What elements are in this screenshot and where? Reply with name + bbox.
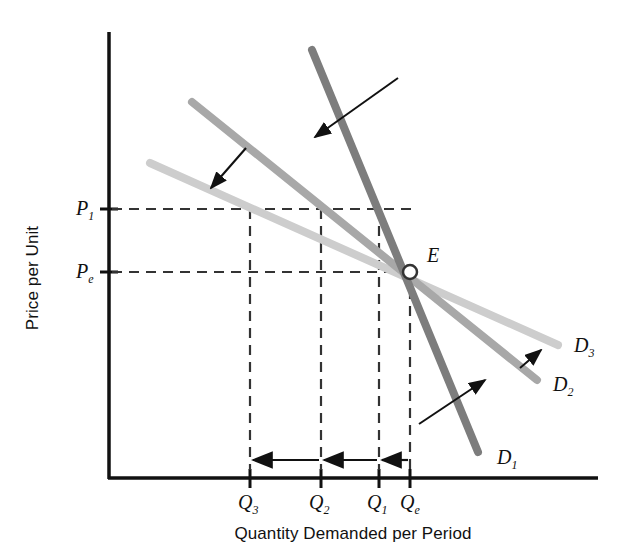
- y-axis-title: Price per Unit: [23, 183, 43, 373]
- price-label-pe-sub: e: [88, 272, 93, 286]
- quantity-label-q2-text: Q: [309, 491, 323, 513]
- quantity-label-qe-text: Q: [400, 491, 414, 513]
- price-label-p1-text: P: [76, 197, 88, 219]
- demand-elasticity-chart: Price per Unit Quantity Demanded per Per…: [0, 0, 629, 558]
- arrow-to-d2-icon: [211, 148, 246, 188]
- quantity-label-q3: Q3: [238, 491, 258, 518]
- quantity-label-qe-sub: e: [414, 503, 419, 517]
- price-label-pe: Pe: [76, 260, 94, 287]
- demand-curve-d1: [312, 50, 478, 452]
- quantity-label-q2: Q2: [309, 491, 329, 518]
- price-label-p1-sub: 1: [88, 209, 94, 223]
- quantity-label-q3-text: Q: [238, 491, 252, 513]
- curve-label-d1-text: D: [497, 446, 511, 468]
- quantity-label-qe: Qe: [400, 491, 420, 518]
- dashed-quantity-lines: [250, 209, 410, 470]
- curve-label-d2-sub: 2: [567, 385, 573, 399]
- demand-curve-d2: [192, 102, 537, 380]
- curve-label-d3-sub: 3: [588, 346, 594, 360]
- quantity-label-q2-sub: 2: [323, 503, 329, 517]
- curve-label-d1-sub: 1: [511, 458, 517, 472]
- x-axis-title: Quantity Demanded per Period: [108, 524, 598, 544]
- price-label-pe-text: P: [76, 260, 88, 282]
- equilibrium-point-marker: [403, 265, 417, 279]
- curve-label-d2: D2: [553, 373, 573, 400]
- curve-label-d2-text: D: [553, 373, 567, 395]
- price-label-p1: P1: [76, 197, 94, 224]
- quantity-label-q1-sub: 1: [381, 503, 387, 517]
- demand-curve-d3: [150, 163, 558, 345]
- arrow-to-d3-lower-icon: [520, 350, 541, 368]
- quantity-label-q1: Q1: [367, 491, 387, 518]
- quantity-label-q3-sub: 3: [252, 503, 258, 517]
- chart-plot-area: [0, 0, 629, 558]
- quantity-label-q1-text: Q: [367, 491, 381, 513]
- curve-label-d1: D1: [497, 446, 517, 473]
- curve-label-d3-text: D: [574, 334, 588, 356]
- equilibrium-label-e: E: [427, 244, 439, 267]
- curve-label-d3: D3: [574, 334, 594, 361]
